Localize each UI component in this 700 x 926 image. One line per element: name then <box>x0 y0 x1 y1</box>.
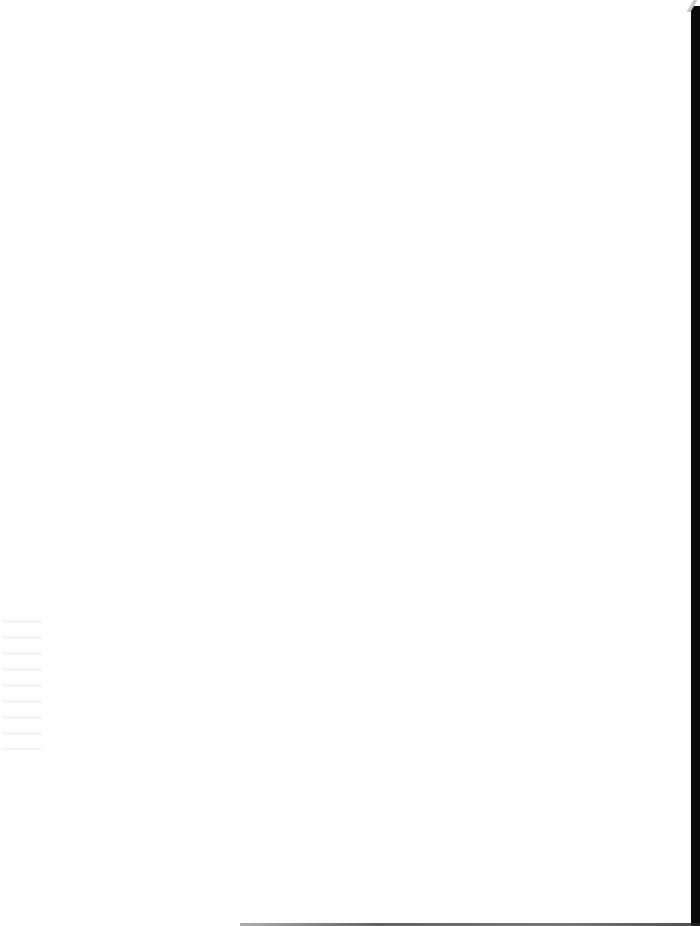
scan-border-right <box>691 6 700 926</box>
bleed-through-marks <box>2 620 42 750</box>
blank-scanned-page <box>0 0 691 922</box>
